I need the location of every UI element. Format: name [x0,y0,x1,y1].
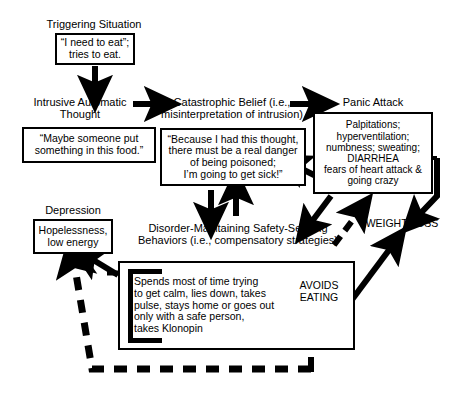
triggering-situation-text: “I need to eat”; tries to eat. [57,37,133,61]
diagram-canvas: Triggering Situation “I need to eat”; tr… [0,0,464,393]
arrow-panic-to-safety [310,196,331,224]
catastrophic-belief-text: “Because I had this thought, there must … [162,134,304,181]
depression-box: Hopelessness, low energy [33,219,113,254]
catastrophic-belief-box: “Because I had this thought, there must … [160,128,306,186]
depression-label: Depression [31,204,115,216]
panic-attack-label: Panic Attack [318,96,428,108]
triggering-situation-box: “I need to eat”; tries to eat. [55,33,135,65]
intrusive-thought-text: “Maybe someone put something in this foo… [24,133,154,157]
panic-diarrhea-text: DIARRHEA [315,153,431,164]
panic-symptoms-bottom-text: fears of heart attack & going crazy [315,164,431,186]
safety-behaviors-label: Disorder-Maintaining Safety-Seeking Beha… [131,222,345,247]
intrusive-thought-label: Intrusive Automatic Thought [18,96,142,121]
panic-symptoms-top-text: Palpitations; hyperventilation; numbness… [315,119,431,153]
safety-box-bracket-bottom [128,338,162,343]
catastrophic-belief-label: Catastrophic Belief (i.e., misinterpreta… [156,96,308,121]
safety-box-bracket-left [128,269,133,343]
depression-text: Hopelessness, low energy [35,225,111,249]
safety-behaviors-box: Spends most of time trying to get calm, … [118,261,355,350]
avoids-eating-label: AVOIDS EATING [288,280,350,304]
panic-attack-box: Palpitations; hyperventilation; numbness… [313,112,433,194]
safety-box-bracket-top [128,269,162,274]
triggering-situation-label: Triggering Situation [44,18,144,30]
weight-loss-label: WEIGHT LOSS [352,218,452,230]
intrusive-thought-box: “Maybe someone put something in this foo… [22,127,156,163]
